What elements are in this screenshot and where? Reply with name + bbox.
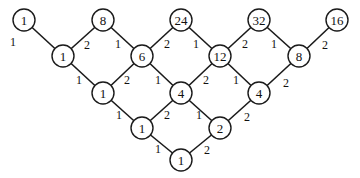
edge-weight-label: 2 <box>164 108 170 122</box>
graph-node: 1 <box>92 82 114 104</box>
node-value-label: 4 <box>256 86 263 101</box>
graph-node: 16 <box>326 9 348 31</box>
node-value-label: 12 <box>214 49 227 64</box>
graph-node: 1 <box>131 117 153 139</box>
edge-weight-label: 1 <box>271 37 277 51</box>
node-value-label: 1 <box>21 13 28 28</box>
graph-node: 4 <box>248 82 270 104</box>
node-value-label: 16 <box>331 13 345 28</box>
node-value-label: 4 <box>178 86 185 101</box>
edge-weight-label: 2 <box>242 37 248 51</box>
node-value-label: 1 <box>60 49 67 64</box>
edge-weight-label: 2 <box>204 143 210 157</box>
node-value-label: 8 <box>296 49 303 64</box>
graph-node: 4 <box>170 82 192 104</box>
edge-weight-label: 2 <box>283 76 289 90</box>
edge-weight-label: 2 <box>124 73 130 87</box>
graph-node: 1 <box>170 149 192 171</box>
node-value-label: 1 <box>100 86 107 101</box>
edge-weight-label: 1 <box>155 142 161 156</box>
edge-weight-label: 2 <box>322 38 328 52</box>
edge-weight-label: 1 <box>196 108 202 122</box>
graph-node: 24 <box>170 9 192 31</box>
edge-weight-label: 1 <box>233 73 239 87</box>
edge-weight-label: 2 <box>244 110 250 124</box>
node-value-label: 8 <box>100 13 107 28</box>
node-value-label: 1 <box>139 121 146 136</box>
edge-weight-label: 2 <box>84 38 90 52</box>
edge-weight-label: 1 <box>115 37 121 51</box>
node-value-label: 32 <box>253 13 266 28</box>
lattice-diagram: 12121212121212121212 1824321616128144121 <box>0 0 360 178</box>
node-value-label: 6 <box>139 49 146 64</box>
graph-node: 1 <box>52 45 74 67</box>
node-value-label: 1 <box>178 153 185 168</box>
edge-weight-label: 1 <box>193 37 199 51</box>
graph-node: 6 <box>131 45 153 67</box>
node-value-label: 2 <box>217 121 224 136</box>
edge-weight-label: 1 <box>76 73 82 87</box>
node-value-label: 24 <box>175 13 189 28</box>
graph-node: 32 <box>248 9 270 31</box>
edge-weight-label: 1 <box>116 108 122 122</box>
graph-node: 1 <box>13 9 35 31</box>
graph-node: 8 <box>92 9 114 31</box>
nodes-layer: 1824321616128144121 <box>13 9 348 171</box>
graph-node: 8 <box>288 45 310 67</box>
edge-weight-label: 2 <box>164 37 170 51</box>
edge-weight-label: 2 <box>203 73 209 87</box>
edge-weight-label: 1 <box>155 73 161 87</box>
graph-node: 12 <box>209 45 231 67</box>
edge-weight-label: 1 <box>10 35 16 49</box>
graph-node: 2 <box>209 117 231 139</box>
